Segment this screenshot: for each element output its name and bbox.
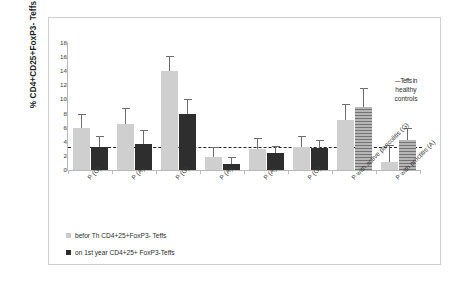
error-bar [143,130,144,143]
x-axis-tick-mark [68,170,69,174]
x-axis-tick-mark [200,170,201,174]
legend-item-first-year: on 1st year CD4+25+ FoxP3-Teffs [66,249,175,256]
x-axis-tick-mark [288,170,289,174]
error-bar [275,146,276,153]
reference-legend-line2: healthy [378,85,434,94]
bar-series-before-7 [381,162,398,170]
plot-area [68,43,420,170]
error-bar [301,136,302,147]
error-bar-cap [342,104,350,105]
error-bar [363,88,364,107]
error-bar [99,136,100,147]
y-axis-title: % CD4+CD25+FoxP3- Teffs [29,0,38,130]
error-bar-cap [316,140,324,141]
error-bar-cap [166,56,174,57]
error-bar-cap [184,99,192,100]
bar-series-before-6 [337,120,354,170]
legend-label-first-year: on 1st year CD4+25+ FoxP3-Teffs [75,249,175,256]
error-bar-cap [272,146,280,147]
bar-series-before-1 [117,124,134,170]
error-bar [319,140,320,148]
error-bar [125,108,126,124]
legend-swatch-light-icon [66,233,71,238]
error-bar-cap [228,157,236,158]
error-bar-cap [140,130,148,131]
error-bar [345,104,346,120]
error-bar-cap [360,88,368,89]
x-axis-tick-mark [332,170,333,174]
error-bar [187,99,188,114]
bar-series-before-2 [161,71,178,170]
error-bar [231,157,232,164]
error-bar-cap [254,138,262,139]
x-axis-tick-mark [420,170,421,174]
legend-label-before-therapy: befor Th CD4+25+FoxP3- Teffs [75,232,166,239]
x-axis-tick-mark [376,170,377,174]
error-bar [213,147,214,157]
reference-line-legend: ---Teffs in healthy controls [378,76,434,103]
error-bar-cap [122,108,130,109]
x-axis-tick-mark [244,170,245,174]
legend-swatch-dark-icon [66,250,71,255]
bar-series-before-3 [205,157,222,170]
error-bar [407,128,408,141]
error-bar-cap [298,136,306,137]
x-axis-tick-mark [156,170,157,174]
error-bar [257,138,258,149]
error-bar-cap [78,114,86,115]
bar-series-before-4 [249,149,266,170]
error-bar [169,56,170,72]
error-bar-cap [210,147,218,148]
reference-legend-line3: controls [378,94,434,103]
x-axis-tick-mark [112,170,113,174]
error-bar [81,114,82,129]
bar-series-firstyear-2 [179,114,196,170]
error-bar-cap [96,136,104,137]
reference-legend-line1: ---Teffs in [378,76,434,85]
legend-item-before-therapy: befor Th CD4+25+FoxP3- Teffs [66,232,175,239]
series-legend: befor Th CD4+25+FoxP3- Teffs on 1st year… [66,232,175,266]
bar-series-firstyear-1 [135,144,152,170]
bar-series-before-0 [73,128,90,170]
error-bar [389,145,390,161]
y-axis-ticks: 024681012141618 [48,43,67,171]
bar-series-before-5 [293,147,310,170]
figure-canvas: % CD4+CD25+FoxP3- Teffs 024681012141618 … [0,0,454,290]
